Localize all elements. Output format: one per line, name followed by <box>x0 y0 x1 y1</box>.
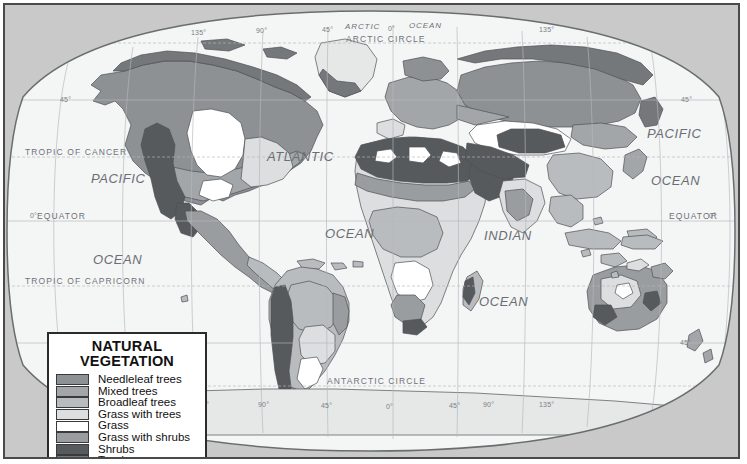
legend-swatch-grass <box>56 421 89 432</box>
legend-title-line-2: VEGETATION <box>49 354 205 369</box>
legend-label-needleleaf-trees: Needleleaf trees <box>98 374 182 386</box>
legend-item: Grass with trees <box>56 409 205 421</box>
legend-title-line-1: NATURAL <box>49 339 205 354</box>
legend-swatch-tundra <box>56 455 89 459</box>
map-frame: ARCTIC OCEAN PACIFIC OCEAN ATLANTIC OCEA… <box>3 3 740 459</box>
legend-swatch-needleleaf-trees <box>56 374 89 385</box>
legend-swatch-grass-with-shrubs <box>56 432 89 443</box>
legend-item-list: Needleleaf trees Mixed trees Broadleaf t… <box>49 374 205 459</box>
legend-swatch-shrubs <box>56 444 89 455</box>
legend-swatch-grass-with-trees <box>56 409 89 420</box>
legend-item: Needleleaf trees <box>56 374 205 386</box>
legend-panel: NATURAL VEGETATION Needleleaf trees Mixe… <box>47 332 207 459</box>
legend-item: Grass with shrubs <box>56 432 205 444</box>
legend-swatch-broadleaf-trees <box>56 397 89 408</box>
legend-label-grass-with-shrubs: Grass with shrubs <box>98 432 190 444</box>
legend-title: NATURAL VEGETATION <box>49 334 205 369</box>
legend-item: Tundra <box>56 455 205 459</box>
legend-label-tundra: Tundra <box>98 455 134 459</box>
legend-swatch-mixed-trees <box>56 386 89 397</box>
world-vegetation-map-page: ARCTIC OCEAN PACIFIC OCEAN ATLANTIC OCEA… <box>0 0 747 464</box>
